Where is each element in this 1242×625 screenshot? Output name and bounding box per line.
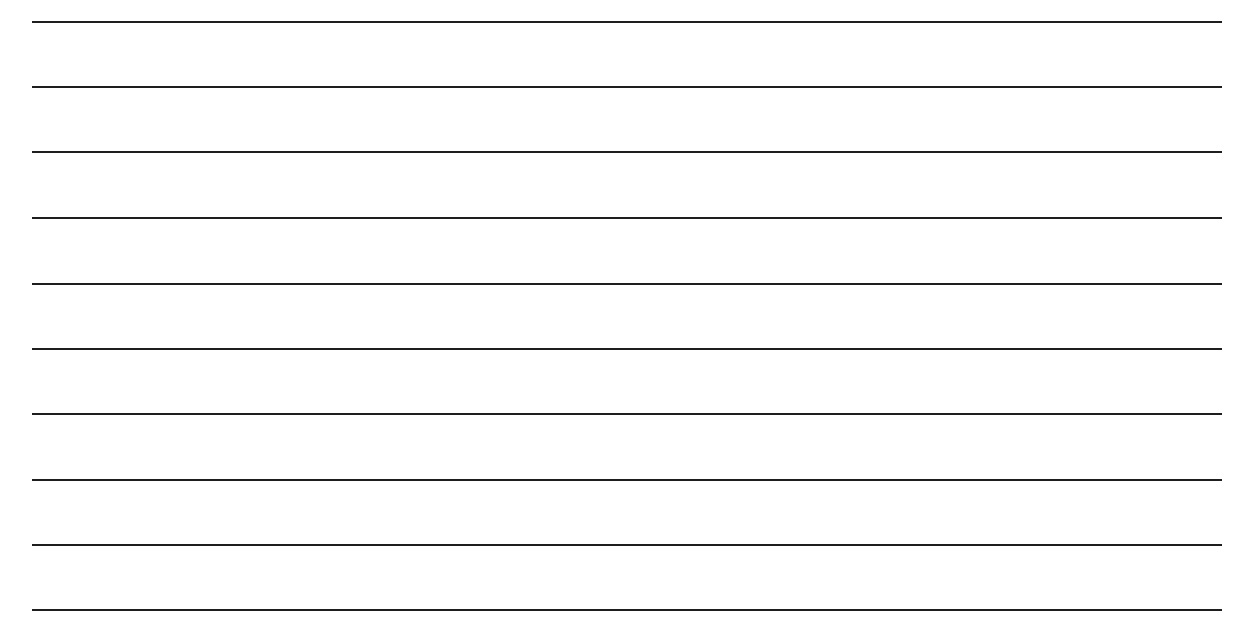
ruled-line	[32, 217, 1222, 219]
lined-page	[0, 0, 1242, 625]
ruled-line	[32, 479, 1222, 481]
ruled-line	[32, 86, 1222, 88]
ruled-line	[32, 21, 1222, 23]
ruled-line	[32, 348, 1222, 350]
ruled-line	[32, 609, 1222, 611]
ruled-line	[32, 283, 1222, 285]
ruled-line	[32, 151, 1222, 153]
ruled-line	[32, 413, 1222, 415]
ruled-line	[32, 544, 1222, 546]
